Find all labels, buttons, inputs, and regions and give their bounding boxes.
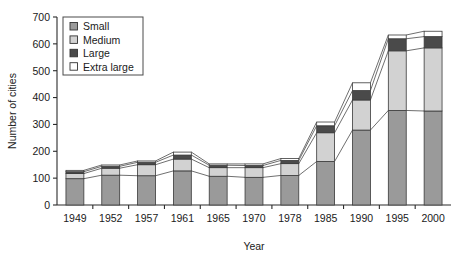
y-tick-label: 200 [32, 145, 50, 157]
bar-segment [281, 164, 299, 176]
connector-line [120, 165, 138, 168]
connector-line [335, 91, 353, 126]
legend-swatch [70, 63, 78, 70]
legend-swatch [70, 23, 78, 31]
connector-line [84, 165, 102, 170]
connector-line [335, 130, 353, 161]
connector-line [263, 164, 281, 168]
connector-line [191, 171, 209, 176]
bar-segment [353, 83, 371, 91]
x-axis-ticks: 1949195219571961196519701978198519901995… [63, 205, 445, 224]
x-axis-title: Year [243, 240, 265, 252]
bar-segment [317, 161, 335, 205]
bar-segment [388, 110, 406, 205]
legend-swatch [70, 49, 78, 57]
bar-segment [353, 91, 371, 100]
bar-segment [173, 155, 191, 159]
bar-segment [173, 152, 191, 155]
bar-segment [66, 170, 84, 171]
legend-label: Small [83, 20, 109, 32]
x-tick-label: 1995 [386, 212, 410, 224]
bar-segment [388, 39, 406, 51]
bar-segment [209, 176, 227, 205]
y-axis-title: Number of cities [6, 73, 18, 149]
x-tick-label: 1978 [278, 212, 302, 224]
connector-line [156, 171, 174, 176]
y-tick-label: 600 [32, 38, 50, 50]
y-tick-label: 500 [32, 65, 50, 77]
bar-segment [281, 160, 299, 163]
bar-segment [245, 164, 263, 166]
bar-segment [281, 175, 299, 205]
connector-line [370, 39, 388, 91]
bar-segment [424, 48, 442, 111]
connector-line [84, 175, 102, 178]
bar-segment [317, 126, 335, 133]
legend-label: Extra large [83, 61, 134, 73]
x-tick-label: 1990 [350, 212, 374, 224]
bar-segment [102, 168, 120, 175]
bar-segment [102, 175, 120, 205]
connector-line [406, 31, 424, 35]
x-tick-label: 1949 [63, 212, 87, 224]
bar-segment [353, 130, 371, 205]
y-tick-label: 400 [32, 91, 50, 103]
bar-segment [245, 168, 263, 178]
connector-line [191, 152, 209, 164]
x-tick-label: 2000 [421, 212, 445, 224]
x-tick-label: 1961 [171, 212, 195, 224]
connector-line [299, 133, 317, 164]
stacked-bar-chart: 0100200300400500600700194919521957196119… [0, 0, 460, 262]
connector-line [263, 175, 281, 177]
y-axis-ticks: 0100200300400500600700 [32, 11, 57, 211]
x-tick-label: 1970 [242, 212, 266, 224]
x-tick-label: 1952 [99, 212, 123, 224]
connector-line [299, 126, 317, 161]
bar-segment [245, 177, 263, 205]
legend-swatch [70, 36, 78, 44]
bar-segment [102, 165, 120, 166]
bar-segment [317, 133, 335, 162]
bar-segment [317, 122, 335, 126]
y-tick-label: 100 [32, 172, 50, 184]
bar-segment [66, 179, 84, 205]
bar-segment [424, 31, 442, 36]
connector-line [406, 37, 424, 39]
connector-line [299, 122, 317, 159]
bar-segment [388, 35, 406, 39]
bar-segment [209, 164, 227, 165]
y-tick-label: 300 [32, 118, 50, 130]
connector-line [227, 176, 245, 177]
y-tick-label: 700 [32, 11, 50, 23]
bar-segment [424, 37, 442, 48]
bar-segment [353, 100, 371, 130]
y-tick-label: 0 [44, 199, 50, 211]
legend-label: Large [83, 47, 110, 59]
bar-segment [388, 51, 406, 111]
connector-line [406, 110, 424, 111]
connector-line [406, 48, 424, 51]
bar-segment [138, 161, 156, 162]
connector-line [120, 175, 138, 176]
x-tick-label: 1957 [135, 212, 159, 224]
x-tick-label: 1965 [207, 212, 231, 224]
chart-figure: 0100200300400500600700194919521957196119… [0, 0, 460, 262]
connector-line [370, 110, 388, 130]
legend-label: Medium [83, 34, 121, 46]
bar-segment [281, 159, 299, 161]
legend: SmallMediumLargeExtra large [63, 17, 143, 75]
bar-segment [173, 171, 191, 205]
bar-segment [424, 111, 442, 205]
bar-segment [138, 176, 156, 205]
connector-line [299, 161, 317, 175]
x-tick-label: 1985 [314, 212, 338, 224]
bar-segment [66, 174, 84, 179]
bar-segment [209, 168, 227, 177]
bar-segment [138, 165, 156, 176]
bar-segment [173, 159, 191, 171]
